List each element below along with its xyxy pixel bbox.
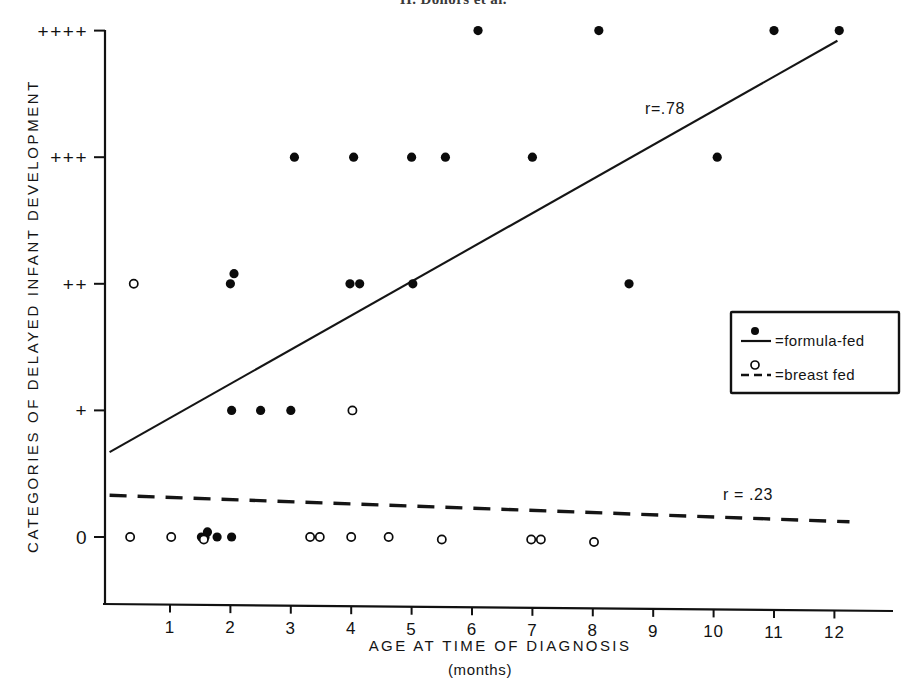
figure-page: H. Donors et al. 0++++++++++ 12345678910… — [0, 0, 907, 689]
x-tick-label: 3 — [286, 619, 296, 638]
data-point-formula — [286, 406, 295, 415]
legend-formula-label: =formula-fed — [775, 332, 864, 349]
x-tick-label: 2 — [225, 618, 235, 637]
data-point-formula — [227, 532, 236, 541]
data-point-formula — [441, 153, 450, 162]
y-axis-title: CATEGORIES OF DELAYED INFANT DEVELOPMENT — [24, 79, 41, 553]
legend-formula-marker-icon — [751, 327, 759, 335]
data-point-formula — [256, 406, 265, 415]
x-tick-label: 10 — [703, 622, 724, 641]
y-tick-label: 0 — [76, 527, 88, 548]
data-point-formula — [290, 153, 299, 162]
data-point-breast — [527, 535, 535, 543]
data-point-formula — [769, 26, 778, 35]
data-point-formula — [355, 279, 364, 288]
data-point-formula — [226, 279, 235, 288]
data-point-formula — [624, 279, 633, 288]
legend-breast-marker-icon — [751, 361, 759, 369]
legend: =formula-fed =breast fed — [731, 312, 899, 393]
x-axis-subtitle: (months) — [448, 661, 512, 678]
data-point-formula — [213, 532, 222, 541]
data-point-formula — [473, 26, 482, 35]
data-point-breast — [348, 406, 356, 414]
x-tick-label: 1 — [165, 618, 175, 637]
data-point-breast — [438, 535, 446, 543]
data-point-breast — [306, 533, 314, 541]
data-point-formula — [835, 26, 844, 35]
y-tick-label: + — [75, 400, 88, 421]
formula-trendline — [110, 41, 838, 452]
data-point-formula — [594, 26, 603, 35]
data-point-breast — [167, 533, 175, 541]
data-point-breast — [316, 533, 324, 541]
data-point-formula — [407, 153, 416, 162]
data-point-breast — [126, 533, 134, 541]
data-point-formula — [345, 279, 354, 288]
x-axis-title: AGE AT TIME OF DIAGNOSIS — [369, 637, 632, 654]
x-tick-label: 12 — [824, 623, 845, 642]
x-tick-label: 9 — [648, 622, 658, 641]
y-tick-group: 0++++++++++ — [38, 21, 105, 548]
trendline-group — [110, 41, 850, 522]
x-tick-label: 5 — [406, 620, 416, 639]
data-point-formula — [528, 153, 537, 162]
data-point-breast — [590, 538, 598, 546]
data-point-breast — [385, 533, 393, 541]
data-point-formula — [227, 406, 236, 415]
x-tick-label: 11 — [764, 623, 784, 642]
y-tick-label: +++ — [50, 147, 88, 168]
data-point-breast — [130, 280, 138, 288]
data-point-breast — [347, 533, 355, 541]
r-value-breast-label: r = .23 — [723, 486, 773, 503]
y-tick-label: ++++ — [38, 21, 88, 42]
x-tick-label: 4 — [346, 619, 356, 638]
data-point-group — [126, 26, 844, 546]
legend-breast-label: =breast fed — [775, 366, 855, 383]
scatter-plot: 0++++++++++ 123456789101112 r=.78 r = .2… — [0, 0, 907, 689]
data-point-breast — [200, 535, 208, 543]
y-tick-label: ++ — [63, 274, 88, 295]
r-value-formula-label: r=.78 — [645, 100, 685, 117]
data-point-formula — [349, 153, 358, 162]
data-point-formula — [713, 153, 722, 162]
data-point-formula — [408, 279, 417, 288]
data-point-breast — [537, 535, 545, 543]
data-point-formula — [229, 269, 238, 278]
